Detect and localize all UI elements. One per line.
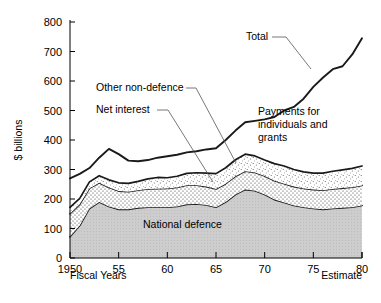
annotation-net-interest: Net interest — [96, 103, 150, 115]
annotation-payments-line3: grants — [258, 131, 287, 143]
y-tick-label: 100 — [44, 223, 62, 235]
y-tick-label: 200 — [44, 193, 62, 205]
x-tick-label: 60 — [161, 263, 173, 275]
y-tick-label: 500 — [44, 105, 62, 117]
y-tick-label: 600 — [44, 75, 62, 87]
annotation-other-non-defence: Other non-defence — [96, 81, 184, 93]
annotation-payments-line2: individuals and — [258, 118, 328, 130]
leader-net-interest — [157, 110, 213, 182]
chart-figure: 0100200300400500600700800195055606570758… — [0, 0, 381, 303]
y-axis-title: $ billions — [12, 120, 24, 161]
annotation-payments-line1: Payments for — [258, 105, 320, 117]
y-tick-label: 800 — [44, 16, 62, 28]
annotation-national-defence: National defence — [143, 218, 222, 230]
x-tick-label: 75 — [307, 263, 319, 275]
y-tick-label: 300 — [44, 164, 62, 176]
x-axis-title: Fiscal Years — [70, 269, 127, 281]
chart-canvas: 0100200300400500600700800195055606570758… — [0, 0, 381, 303]
leader-total — [272, 37, 311, 69]
stacked-bands — [70, 154, 362, 258]
x-tick-label: 65 — [210, 263, 222, 275]
y-tick-label: 700 — [44, 46, 62, 58]
annotation-estimate: Estimate — [321, 269, 362, 281]
annotation-total: Total — [246, 30, 268, 42]
x-tick-label: 70 — [259, 263, 271, 275]
y-tick-label: 400 — [44, 134, 62, 146]
